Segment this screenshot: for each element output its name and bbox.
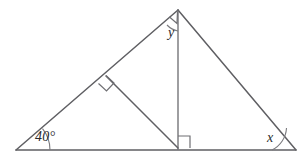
geometry-figure: 40° y x <box>0 0 304 160</box>
angle-label-y: y <box>168 26 174 40</box>
arc-right-x <box>272 128 287 150</box>
right-side-line <box>178 10 296 150</box>
angle-label-40-degrees: 40° <box>35 130 55 144</box>
angle-label-x: x <box>267 131 273 145</box>
right-angle-at-cevian-foot <box>99 76 115 92</box>
cevian-line <box>106 76 178 148</box>
right-angle-at-altitude-foot <box>178 136 190 148</box>
